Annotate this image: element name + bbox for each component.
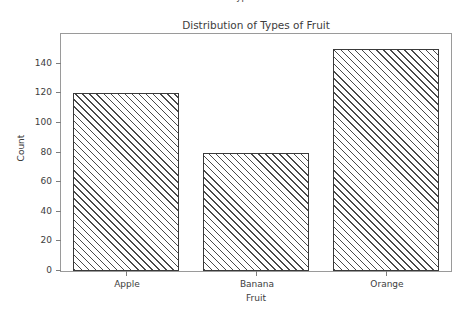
x-axis-tick: Orange — [386, 271, 387, 276]
y-axis-tick: 20 — [56, 240, 61, 241]
y-axis-tick: 60 — [56, 181, 61, 182]
chart-title: Distribution of Types of Fruit — [60, 19, 452, 31]
y-axis-tick: 100 — [56, 122, 61, 123]
x-axis-tick: Apple — [126, 271, 127, 276]
bar — [333, 49, 440, 271]
y-axis-tick-label: 120 — [35, 87, 52, 97]
bar-chart-figure: Distribution of Types of Fruit 020406080… — [0, 0, 471, 316]
y-axis-tick-label: 20 — [41, 235, 52, 245]
y-axis-tick: 40 — [56, 211, 61, 212]
y-axis-label: Count — [16, 113, 26, 183]
x-axis-tick-label: Orange — [370, 279, 403, 289]
y-axis-tick: 140 — [56, 63, 61, 64]
x-axis-tick-label: Banana — [240, 279, 274, 289]
bar — [73, 93, 180, 271]
bar — [203, 153, 310, 272]
plot-area: 020406080100120140AppleBananaOrange — [60, 33, 452, 272]
x-axis-label: Fruit — [60, 293, 452, 303]
y-axis-tick-label: 140 — [35, 58, 52, 68]
y-axis-tick-label: 0 — [46, 265, 52, 275]
y-axis-tick-label: 100 — [35, 117, 52, 127]
y-axis-tick-label: 40 — [41, 206, 52, 216]
x-axis-tick: Banana — [256, 271, 257, 276]
y-axis-tick-label: 60 — [41, 176, 52, 186]
y-axis-tick: 80 — [56, 152, 61, 153]
x-axis-tick-label: Apple — [114, 279, 140, 289]
y-axis-tick: 0 — [56, 270, 61, 271]
y-axis-tick-label: 80 — [41, 147, 52, 157]
y-axis-tick: 120 — [56, 92, 61, 93]
